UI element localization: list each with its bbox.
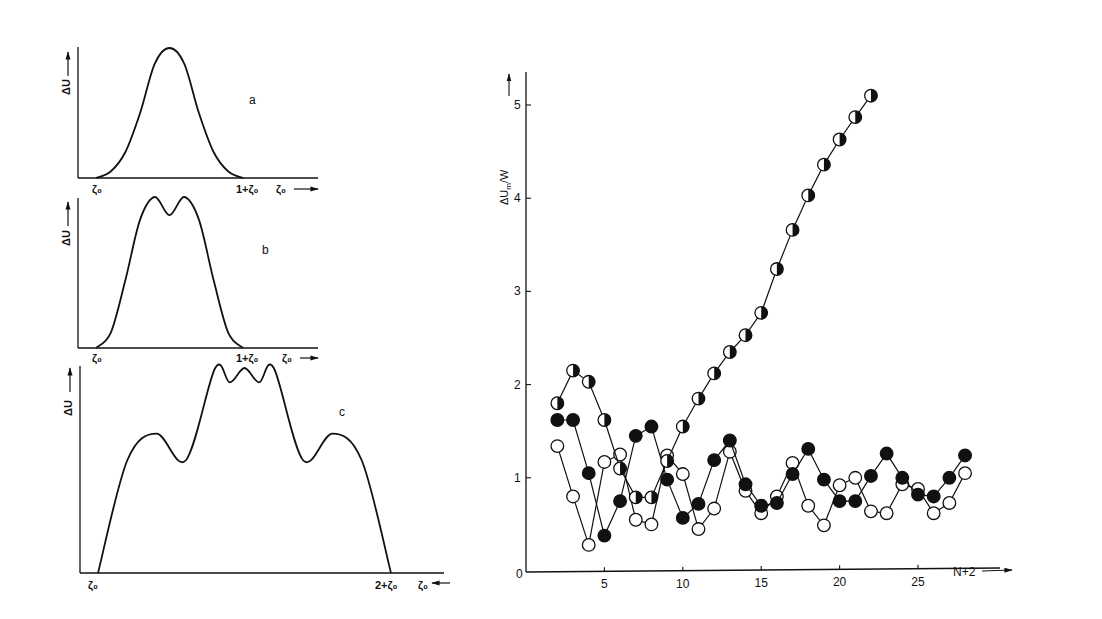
panel-b-ylabel: ΔU — [60, 230, 72, 246]
main-ylabel-text: ΔU — [498, 190, 510, 205]
panel-b-xtick-end: 1+ζ₀ — [236, 352, 259, 365]
open-circle-marker-icon — [927, 507, 940, 520]
series-filled — [551, 414, 971, 542]
filled-circle-marker-icon — [896, 472, 909, 485]
open-circle-marker-icon — [645, 518, 658, 531]
panel-b: ΔU b ζ₀ 1+ζ₀ ζ₀ — [60, 197, 318, 365]
panel-c-xlabel: ζ₀ — [418, 579, 428, 592]
open-circle-marker-icon — [708, 502, 721, 515]
x-tick-label: 20 — [833, 575, 847, 589]
filled-circle-marker-icon — [724, 434, 737, 447]
open-circle-marker-icon — [849, 472, 862, 485]
filled-circle-marker-icon — [692, 498, 705, 511]
panel-b-xtick-start: ζ₀ — [92, 352, 102, 365]
filled-circle-marker-icon — [551, 414, 564, 427]
open-circle-marker-icon — [833, 479, 846, 492]
panel-a: ΔU a ζ₀ 1+ζ₀ ζ₀ — [60, 47, 318, 196]
panel-b-curve — [96, 197, 243, 348]
y-tick-label: 4 — [514, 191, 521, 205]
open-circle-marker-icon — [802, 499, 815, 512]
filled-circle-marker-icon — [739, 478, 752, 491]
filled-circle-marker-icon — [818, 473, 831, 486]
series-line — [557, 96, 871, 498]
open-circle-marker-icon — [629, 513, 642, 526]
filled-circle-marker-icon — [614, 495, 627, 508]
x-tick-label: 25 — [911, 575, 925, 589]
filled-circle-marker-icon — [708, 454, 721, 467]
main-x-axis — [526, 568, 1000, 572]
filled-circle-marker-icon — [880, 447, 893, 460]
open-circle-marker-icon — [598, 456, 611, 469]
y-tick-label: 3 — [514, 284, 521, 298]
series-half-filled — [551, 89, 877, 503]
filled-circle-marker-icon — [661, 473, 674, 486]
svg-text:ΔUm/W: ΔUm/W — [498, 169, 513, 205]
open-circle-marker-icon — [567, 490, 580, 503]
filled-circle-marker-icon — [645, 420, 658, 433]
filled-circle-marker-icon — [927, 490, 940, 503]
filled-circle-marker-icon — [786, 468, 799, 481]
open-circle-marker-icon — [880, 507, 893, 520]
open-circle-marker-icon — [551, 440, 564, 453]
y-tick-label: 5 — [514, 98, 521, 112]
filled-circle-marker-icon — [677, 512, 690, 525]
filled-circle-marker-icon — [912, 488, 925, 501]
x-tick-label: 15 — [755, 576, 769, 590]
open-circle-marker-icon — [865, 505, 878, 518]
filled-circle-marker-icon — [802, 443, 815, 456]
filled-circle-marker-icon — [755, 499, 768, 512]
main-series — [551, 89, 971, 551]
panel-c-curve — [98, 365, 391, 573]
y-tick-label: 1 — [514, 471, 521, 485]
open-circle-marker-icon — [818, 519, 831, 532]
panel-a-xtick-end: 1+ζ₀ — [236, 183, 259, 196]
y-tick-label: 2 — [514, 378, 521, 392]
panel-c-ylabel: ΔU — [62, 400, 74, 416]
open-circle-marker-icon — [692, 523, 705, 536]
panel-a-label: a — [249, 93, 256, 107]
filled-circle-marker-icon — [567, 414, 580, 427]
x-tick-label: 10 — [676, 577, 690, 591]
main-ylabel: ΔUm/W — [498, 169, 513, 205]
filled-circle-marker-icon — [598, 529, 611, 542]
main-y-ticks: 12345 — [514, 98, 531, 485]
main-plot: 12345 510152025 0 ΔUm/W N+2 — [498, 72, 1012, 591]
filled-circle-marker-icon — [865, 470, 878, 483]
filled-circle-marker-icon — [959, 449, 972, 462]
panel-a-curve — [96, 48, 243, 178]
filled-circle-marker-icon — [771, 497, 784, 510]
figure: ΔU a ζ₀ 1+ζ₀ ζ₀ ΔU b ζ₀ 1+ζ₀ ζ₀ ΔU c ζ₀ … — [0, 0, 1102, 619]
panel-b-label: b — [262, 243, 269, 257]
panel-c-xtick-start: ζ₀ — [88, 579, 98, 592]
open-circle-marker-icon — [677, 468, 690, 481]
main-x-arrow-icon — [982, 570, 1012, 571]
open-circle-marker-icon — [959, 467, 972, 480]
filled-circle-marker-icon — [849, 495, 862, 508]
panel-c-label: c — [339, 405, 345, 419]
panel-b-xlabel: ζ₀ — [282, 352, 292, 365]
panel-a-ylabel: ΔU — [60, 79, 72, 95]
main-origin-label: 0 — [516, 567, 523, 581]
panel-c: ΔU c ζ₀ 2+ζ₀ ζ₀ — [62, 365, 450, 592]
panel-a-xtick-start: ζ₀ — [92, 183, 102, 196]
filled-circle-marker-icon — [943, 472, 956, 485]
filled-circle-marker-icon — [629, 430, 642, 443]
filled-circle-marker-icon — [833, 495, 846, 508]
panel-c-xtick-end: 2+ζ₀ — [375, 579, 398, 592]
x-tick-label: 5 — [601, 577, 608, 591]
open-circle-marker-icon — [943, 497, 956, 510]
panel-a-xlabel: ζ₀ — [276, 183, 286, 196]
series-open — [551, 440, 971, 551]
main-ylabel-tail: /W — [498, 169, 510, 183]
open-circle-marker-icon — [582, 539, 595, 552]
main-xlabel: N+2 — [953, 565, 976, 579]
filled-circle-marker-icon — [582, 467, 595, 480]
